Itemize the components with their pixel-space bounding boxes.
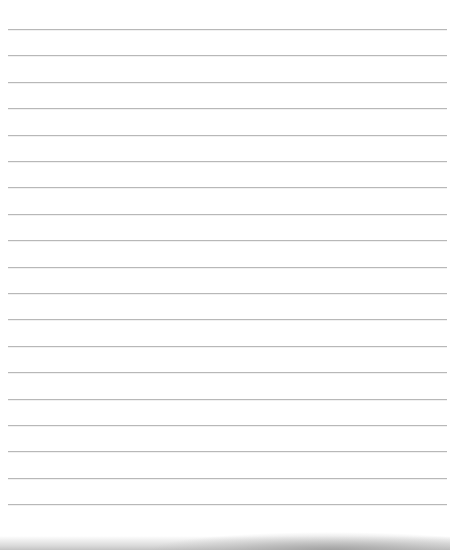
ruled-line	[8, 319, 447, 320]
ruled-line	[8, 187, 447, 188]
ruled-line	[8, 29, 447, 30]
ruled-line	[8, 82, 447, 83]
ruled-line	[8, 372, 447, 373]
ruled-line	[8, 478, 447, 479]
lined-paper-sheet	[0, 0, 450, 550]
ruled-line	[8, 240, 447, 241]
ruled-line	[8, 293, 447, 294]
ruled-line	[8, 399, 447, 400]
ruled-line	[8, 108, 447, 109]
paper-bottom-shadow	[0, 528, 450, 550]
ruled-line	[8, 214, 447, 215]
ruled-line	[8, 451, 447, 452]
ruled-line	[8, 346, 447, 347]
ruled-line	[8, 504, 447, 505]
ruled-line	[8, 161, 447, 162]
ruled-line	[8, 267, 447, 268]
ruled-line	[8, 55, 447, 56]
ruled-line	[8, 425, 447, 426]
ruled-line	[8, 135, 447, 136]
